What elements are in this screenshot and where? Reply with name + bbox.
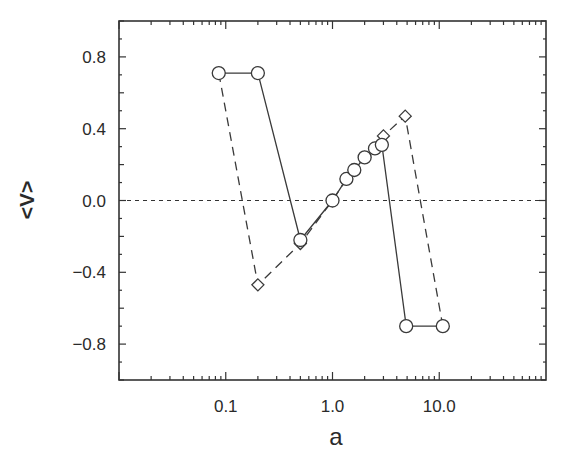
y-tick-label: 0.8 (82, 48, 106, 67)
y-tick-labels: 0.80.40.0−0.4−0.8 (72, 48, 106, 354)
circle-marker (294, 233, 307, 246)
x-tick-label: 1.0 (321, 397, 345, 416)
circle-marker (212, 67, 225, 80)
x-axis-title: a (329, 423, 343, 450)
circle-marker (348, 163, 361, 176)
circle-marker (358, 151, 371, 164)
y-tick-label: −0.4 (72, 263, 106, 282)
series-markers (212, 67, 449, 333)
y-tick-label: 0.0 (82, 192, 106, 211)
circle-marker (326, 194, 339, 207)
y-axis-title: <V> (15, 181, 38, 220)
diamond-marker (399, 110, 411, 122)
x-tick-labels: 0.11.010.0 (214, 397, 456, 416)
circle-marker (400, 320, 413, 333)
y-tick-label: 0.4 (82, 120, 106, 139)
diamond-marker (252, 279, 264, 291)
x-tick-label: 10.0 (423, 397, 456, 416)
x-tick-label: 0.1 (214, 397, 238, 416)
circle-marker (436, 320, 449, 333)
y-tick-label: −0.8 (72, 335, 106, 354)
circle-marker (251, 67, 264, 80)
chart: 0.11.010.0 0.80.40.0−0.4−0.8 a <V> (0, 0, 567, 457)
circle-marker (375, 138, 388, 151)
